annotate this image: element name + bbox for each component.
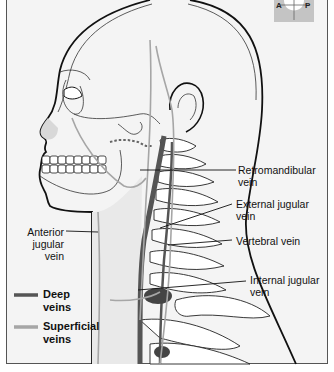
label-internal-jugular-vein: Internal jugular vein (250, 274, 319, 298)
label-anterior-jugular-vein: Anterior jugular vein (18, 226, 64, 262)
legend-label: veins (43, 333, 99, 346)
label-line: vein (236, 210, 309, 222)
orientation-anterior-label: A (276, 1, 282, 10)
label-line: vein (250, 286, 319, 298)
label-line: External jugular (236, 198, 309, 210)
label-line: vein (238, 176, 316, 188)
label-line: Retromandibular (238, 164, 316, 176)
legend-label: Deep (43, 288, 71, 301)
label-retromandibular-vein: Retromandibular vein (238, 164, 316, 188)
label-line: Internal jugular (250, 274, 319, 286)
orientation-marker: A P (274, 0, 314, 22)
label-line: jugular (18, 238, 64, 250)
label-line: Anterior (18, 226, 64, 238)
legend-label: veins (43, 301, 71, 314)
label-line: vein (18, 250, 64, 262)
orientation-posterior-label: P (305, 1, 310, 10)
legend-label: Superficial (43, 320, 99, 333)
label-external-jugular-vein: External jugular vein (236, 198, 309, 222)
legend-deep-veins: Deep veins (43, 288, 71, 313)
label-vertebral-vein: Vertebral vein (236, 235, 300, 247)
legend-superficial-veins: Superficial veins (43, 320, 99, 345)
